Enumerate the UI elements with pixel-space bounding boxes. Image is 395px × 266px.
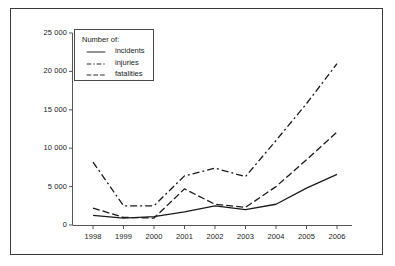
legend-swatch-injuries-icon [82, 63, 110, 65]
y-axis-tick-label: 25 000 [10, 28, 67, 37]
legend-label: fatalities [115, 69, 143, 78]
legend-label: incidents [115, 46, 145, 55]
chart-legend: Number of: incidentsinjuriesfatalities [74, 29, 154, 81]
y-axis-tick-label: 10 000 [10, 143, 67, 152]
series-line-injuries [93, 64, 337, 206]
y-axis-tick-label: 15 000 [10, 105, 67, 114]
legend-swatch-incidents-icon [82, 51, 110, 53]
x-axis-ticks [93, 226, 337, 230]
x-axis-tick-label: 2006 [317, 232, 357, 241]
y-axis-tick-label: 20 000 [10, 66, 67, 75]
series-line-incidents [93, 174, 337, 218]
y-axis-ticks [69, 33, 73, 225]
y-axis-tick-label: 5 000 [10, 182, 67, 191]
legend-label: injuries [115, 58, 139, 67]
legend-title: Number of: [82, 35, 119, 44]
legend-swatch-fatalities-icon [82, 74, 110, 76]
y-axis-tick-label: 0 [10, 220, 67, 229]
chart-series-group [93, 64, 337, 218]
